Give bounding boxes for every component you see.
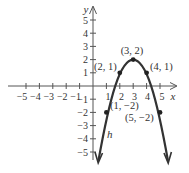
point-1-neg2 bbox=[104, 110, 109, 115]
x-tick-label: −3 bbox=[43, 91, 54, 102]
point-5-neg2 bbox=[158, 110, 163, 115]
x-tick-label: −4 bbox=[30, 91, 41, 102]
y-tick-label: −2 bbox=[77, 107, 88, 118]
function-label-h: h bbox=[107, 128, 113, 140]
y-tick-label: −3 bbox=[77, 120, 88, 131]
x-tick-label: 4 bbox=[145, 91, 150, 102]
y-tick-label: 4 bbox=[83, 28, 88, 39]
y-tick-label: 5 bbox=[83, 15, 88, 26]
y-tick-label: 1 bbox=[83, 67, 88, 78]
graph-figure: −5 −4 −3 −2 −1 1 2 3 4 5 x bbox=[0, 0, 189, 173]
label-3-2: (3, 2) bbox=[121, 45, 144, 57]
label-5-neg2: (5, −2) bbox=[125, 112, 154, 124]
x-tick-label: 5 bbox=[160, 91, 165, 102]
point-4-1 bbox=[144, 70, 149, 75]
x-tick-label: −5 bbox=[17, 91, 28, 102]
y-tick-label: −5 bbox=[77, 147, 88, 158]
y-axis: 5 4 3 2 1 −1 −2 −3 −4 −5 y bbox=[77, 3, 96, 160]
y-tick-label: 2 bbox=[83, 54, 88, 65]
coordinate-plane: −5 −4 −3 −2 −1 1 2 3 4 5 x bbox=[0, 0, 189, 173]
label-2-1: (2, 1) bbox=[94, 61, 117, 73]
y-axis-label: y bbox=[83, 3, 89, 15]
x-tick-label: −2 bbox=[57, 91, 68, 102]
point-3-2 bbox=[131, 57, 136, 62]
y-tick-label: 3 bbox=[83, 41, 88, 52]
x-axis-tick-labels: −5 −4 −3 −2 −1 1 2 3 4 5 bbox=[17, 91, 165, 102]
y-tick-label: −4 bbox=[77, 133, 88, 144]
label-4-1: (4, 1) bbox=[150, 61, 173, 73]
y-tick-label: −1 bbox=[77, 94, 88, 105]
label-1-neg2: (1, −2) bbox=[110, 100, 139, 112]
point-2-1 bbox=[117, 70, 122, 75]
x-axis-label: x bbox=[170, 90, 176, 102]
